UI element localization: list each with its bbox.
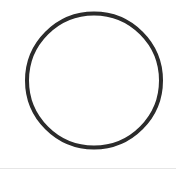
- circle-outline: [27, 14, 161, 148]
- diagram-canvas: [0, 0, 176, 170]
- bottom-divider: [0, 168, 176, 169]
